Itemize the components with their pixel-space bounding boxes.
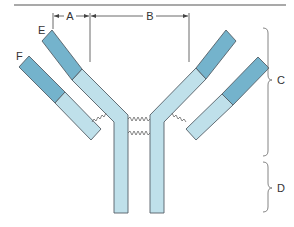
- light-chain-left: [19, 56, 101, 140]
- disulfide-bond-hinge-lower: [128, 131, 150, 135]
- heavy-chain-right-variable-region: [196, 30, 236, 79]
- disulfide-bond-left-light-heavy: [92, 113, 106, 122]
- heavy-chain-left-constant-region: [72, 69, 128, 213]
- light-chain-right-variable-region: [222, 57, 269, 105]
- dimension-a-arrow-right: [84, 14, 89, 18]
- label-d: D: [277, 182, 285, 194]
- brace-c: [263, 28, 272, 156]
- dimension-b-arrow-left: [91, 14, 96, 18]
- dimension-lines: A B: [53, 10, 189, 62]
- disulfide-bond-hinge-upper: [128, 117, 150, 121]
- label-c: C: [277, 74, 285, 86]
- heavy-chain-left-variable-region: [42, 30, 82, 80]
- dimension-a-arrow-left: [54, 14, 59, 18]
- brace-d: [263, 162, 272, 212]
- heavy-chain-right: [150, 30, 236, 213]
- label-e: E: [38, 24, 45, 36]
- label-a: A: [66, 10, 74, 22]
- label-f: F: [16, 50, 23, 62]
- disulfide-bond-right-light-heavy: [172, 113, 186, 122]
- dimension-b-arrow-right: [183, 14, 188, 18]
- heavy-chain-right-constant-region: [150, 68, 206, 213]
- light-chain-right-constant-region: [186, 94, 233, 140]
- antibody-diagram: A B E F C D: [0, 0, 294, 227]
- label-b: B: [146, 10, 153, 22]
- light-chain-left-variable-region: [19, 56, 65, 103]
